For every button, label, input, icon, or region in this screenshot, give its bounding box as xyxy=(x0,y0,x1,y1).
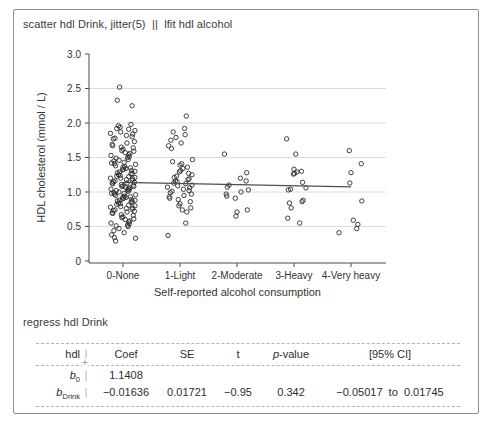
y-tick-label: 2.0 xyxy=(67,118,81,129)
y-axis-title: HDL cholesterol (mmol / L) xyxy=(35,92,47,222)
header-coef: Coef xyxy=(92,348,160,361)
header-ci: [95% CI] xyxy=(320,348,460,361)
table-header-row: hdl | Coef SE t p-value [95% CI] xyxy=(36,348,460,361)
page: { "window": { "bg": "#ffffff", "border_c… xyxy=(0,0,487,428)
scatter-points xyxy=(108,85,364,243)
header-t: t xyxy=(214,348,262,361)
figure-frame: scatter hdl Drink, jitter(5) || lfit hdl… xyxy=(13,9,479,414)
y-tick-label: 1.5 xyxy=(67,152,81,163)
bdrink-pvalue: 0.342 xyxy=(262,386,320,399)
bdrink-coef: −0.01636 xyxy=(92,386,160,399)
y-axis-ticks: 00.51.01.52.02.53.0 xyxy=(67,49,89,267)
bdrink-se: 0.01721 xyxy=(160,386,214,399)
table-rule-mid: + xyxy=(36,365,460,366)
table-row-b0: b0 | 1.1408 xyxy=(36,369,460,386)
x-tick-label: 2-Moderate xyxy=(211,270,263,281)
table-rule-bottom xyxy=(36,406,460,407)
y-tick-label: 0 xyxy=(75,256,81,267)
command-scatter: scatter hdl Drink, jitter(5) || lfit hdl… xyxy=(23,18,232,30)
command-regress: regress hdl Drink xyxy=(23,316,108,328)
column-separator: | xyxy=(80,369,92,382)
column-separator: | xyxy=(80,386,92,399)
scatter-plot: 00.51.01.52.02.53.00-None1-Light2-Modera… xyxy=(19,35,474,307)
y-tick-label: 1.0 xyxy=(67,187,81,198)
rule-cross: + xyxy=(82,358,88,368)
b0-coef: 1.1408 xyxy=(92,369,160,382)
x-axis-title: Self-reported alcohol consumption xyxy=(154,286,321,298)
y-tick-label: 2.5 xyxy=(67,83,81,94)
y-tick-label: 0.5 xyxy=(67,221,81,232)
fit-line xyxy=(123,182,351,187)
table-row-bdrink: bDrink | −0.01636 0.01721 −0.95 0.342 −0… xyxy=(36,386,460,403)
x-axis-ticks: 0-None1-Light2-Moderate3-Heavy4-Very hea… xyxy=(107,263,381,281)
coef-name-b0: b0 xyxy=(36,369,80,386)
regression-table: hdl | Coef SE t p-value [95% CI] + b0 | … xyxy=(36,343,460,407)
y-tick-label: 3.0 xyxy=(67,49,81,60)
bdrink-t: −0.95 xyxy=(214,386,262,399)
x-tick-label: 3-Heavy xyxy=(275,270,312,281)
x-tick-label: 4-Very heavy xyxy=(322,270,380,281)
header-depvar: hdl xyxy=(36,348,80,361)
coef-name-bdrink: bDrink xyxy=(36,386,80,403)
table-rule-top xyxy=(36,343,460,344)
header-pvalue: p-value xyxy=(262,348,320,361)
bdrink-ci: −0.05017 to 0.01745 xyxy=(320,386,460,399)
x-tick-label: 1-Light xyxy=(165,270,196,281)
x-tick-label: 0-None xyxy=(107,270,140,281)
header-se: SE xyxy=(160,348,214,361)
